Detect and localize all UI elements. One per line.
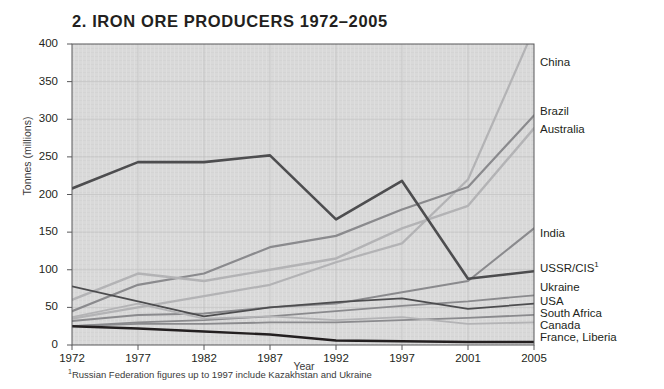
series-label-france-liberia: France, Liberia <box>540 332 617 344</box>
y-tick-label: 350 <box>16 75 58 87</box>
series-label-text: Canada <box>540 319 580 331</box>
footnote: 1Russian Federation figures up to 1997 i… <box>68 368 372 380</box>
series-label-footnote-marker: 1 <box>594 260 598 269</box>
series-label-text: Brazil <box>540 105 569 117</box>
series-label-australia: Australia <box>540 124 585 136</box>
x-tick-label: 2001 <box>438 352 498 364</box>
y-tick-label: 200 <box>16 188 58 200</box>
series-label-canada: Canada <box>540 320 580 332</box>
series-label-text: Ukraine <box>540 281 580 293</box>
y-tick-label: 100 <box>16 263 58 275</box>
series-label-ussr: USSR/CIS1 <box>540 261 599 274</box>
series-label-text: China <box>540 56 570 68</box>
x-tick-label: 2005 <box>504 352 564 364</box>
series-label-usa: USA <box>540 296 564 308</box>
y-tick-label: 250 <box>16 150 58 162</box>
y-tick-label: 150 <box>16 225 58 237</box>
series-label-text: India <box>540 227 565 239</box>
footnote-text: Russian Federation figures up to 1997 in… <box>72 369 372 380</box>
series-label-brazil: Brazil <box>540 106 569 118</box>
x-tick-label: 1982 <box>174 352 234 364</box>
iron-ore-producers-chart: 2. IRON ORE PRODUCERS 1972–2005 Tonnes (… <box>0 0 664 389</box>
series-label-text: Australia <box>540 123 585 135</box>
y-tick-label: 400 <box>16 37 58 49</box>
series-label-india: India <box>540 228 565 240</box>
series-label-text: France, Liberia <box>540 331 617 343</box>
series-label-china: China <box>540 57 570 69</box>
x-tick-label: 1972 <box>42 352 102 364</box>
series-label-south-africa: South Africa <box>540 308 602 320</box>
y-tick-label: 50 <box>16 300 58 312</box>
series-label-text: USSR/CIS <box>540 262 594 274</box>
x-tick-label: 1977 <box>108 352 168 364</box>
series-label-text: USA <box>540 295 564 307</box>
series-label-ukraine: Ukraine <box>540 282 580 294</box>
x-tick-label: 1997 <box>372 352 432 364</box>
y-tick-label: 300 <box>16 112 58 124</box>
y-tick-label: 0 <box>16 338 58 350</box>
series-label-text: South Africa <box>540 307 602 319</box>
